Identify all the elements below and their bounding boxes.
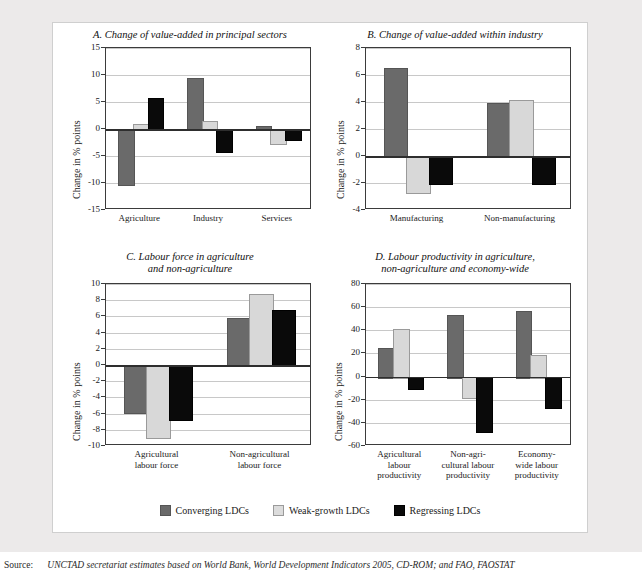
y-axis-tick: [101, 47, 105, 48]
y-axis-tick: [361, 376, 365, 377]
panel-d-title: D. Labour productivity in agriculture, n…: [327, 251, 583, 275]
legend: Converging LDCs Weak-growth LDCs Regress…: [53, 505, 587, 516]
bar: [476, 377, 493, 433]
y-axis-tick-label: -2: [327, 178, 360, 187]
panel-d: D. Labour productivity in agriculture, n…: [327, 251, 583, 487]
gridline: [366, 48, 570, 49]
y-axis-tick-label: 6: [327, 70, 360, 79]
zero-axis-line: [106, 365, 310, 367]
y-axis-tick: [101, 380, 105, 381]
y-axis-tick-label: 4: [327, 97, 360, 106]
bar: [429, 156, 453, 185]
y-axis-tick: [101, 445, 105, 446]
gridline: [366, 423, 570, 424]
y-axis-tick-label: 4: [59, 327, 100, 336]
y-axis-tick: [101, 182, 105, 183]
x-axis-category-label: Agricultural labour force: [105, 449, 208, 470]
bar: [509, 100, 533, 158]
y-axis-tick: [361, 352, 365, 353]
y-axis-tick: [101, 74, 105, 75]
y-axis-tick: [361, 399, 365, 400]
x-axis-category-label: Non-agricultural labour force: [208, 449, 311, 470]
gridline: [106, 156, 310, 157]
y-axis-tick: [361, 155, 365, 156]
x-axis-category-label: Agriculture: [105, 213, 174, 224]
gridline: [366, 307, 570, 308]
panel-a-title: A. Change of value-added in principal se…: [59, 29, 321, 41]
y-axis-tick-label: -60: [327, 441, 360, 450]
y-axis-tick-label: -15: [59, 205, 100, 214]
y-axis-tick-label: 0: [59, 124, 100, 133]
bar: [408, 377, 425, 391]
y-axis-tick-label: 20: [327, 348, 360, 357]
y-axis-tick: [361, 283, 365, 284]
y-axis-tick: [361, 306, 365, 307]
y-axis-tick-label: 40: [327, 325, 360, 334]
legend-label-weak-growth: Weak-growth LDCs: [289, 505, 370, 516]
zero-axis-line: [366, 156, 570, 158]
panel-b: B. Change of value-added within industry…: [327, 29, 583, 245]
y-axis-tick-label: -4: [327, 205, 360, 214]
legend-label-converging: Converging LDCs: [176, 505, 249, 516]
y-axis-tick-label: -20: [327, 394, 360, 403]
y-axis-tick-label: 10: [59, 279, 100, 288]
legend-item-converging: Converging LDCs: [160, 505, 249, 516]
y-axis-tick: [101, 429, 105, 430]
y-axis-tick-label: -10: [59, 441, 100, 450]
x-axis-category-label: Services: [242, 213, 311, 224]
y-axis-tick-label: -4: [59, 392, 100, 401]
gridline: [106, 183, 310, 184]
gridline: [366, 284, 570, 285]
x-axis-category-label: Agricultural labour productivity: [365, 449, 434, 481]
y-axis-tick-label: 0: [327, 371, 360, 380]
panel-b-plot-area: [365, 47, 571, 209]
gridline: [106, 284, 310, 285]
bar: [393, 329, 410, 378]
y-axis-tick: [361, 329, 365, 330]
source-text: UNCTAD secretariat estimates based on Wo…: [47, 560, 514, 570]
bar: [249, 294, 273, 367]
zero-axis-line: [106, 129, 310, 131]
panel-a-plot-frame: [105, 47, 311, 209]
panel-c: C. Labour force in agriculture and non-a…: [59, 251, 321, 487]
source-label: Source:: [4, 560, 33, 570]
bar: [285, 129, 302, 141]
y-axis-tick: [361, 101, 365, 102]
x-axis-category-label: Non-manufacturing: [468, 213, 571, 224]
legend-item-weak-growth: Weak-growth LDCs: [273, 505, 370, 516]
panel-a-plot-area: [105, 47, 311, 209]
bar: [272, 310, 296, 367]
panel-b-plot-frame: [365, 47, 571, 209]
y-axis-tick: [361, 182, 365, 183]
y-axis-tick: [361, 422, 365, 423]
bar: [124, 365, 148, 414]
y-axis-tick: [101, 332, 105, 333]
y-axis-tick-label: 2: [59, 343, 100, 352]
x-axis-category-label: Non-agri- cultural labour productivity: [434, 449, 503, 481]
bar: [406, 156, 430, 194]
bar: [530, 355, 547, 378]
y-axis-tick-label: 60: [327, 302, 360, 311]
y-axis-tick-label: -8: [59, 424, 100, 433]
legend-swatch-icon-weak-growth: [273, 505, 284, 516]
gridline: [366, 400, 570, 401]
panel-d-plot-frame: [365, 283, 571, 445]
source-note: Source: UNCTAD secretariat estimates bas…: [4, 560, 638, 571]
bar: [545, 377, 562, 409]
y-axis-tick: [101, 299, 105, 300]
legend-swatch-icon-regressing: [394, 505, 405, 516]
y-axis-tick: [361, 74, 365, 75]
bar: [148, 98, 165, 131]
y-axis-tick-label: 5: [59, 97, 100, 106]
bar: [384, 68, 408, 158]
y-axis-tick: [361, 209, 365, 210]
y-axis-tick-label: 2: [327, 124, 360, 133]
y-axis-tick: [101, 155, 105, 156]
y-axis-tick: [101, 315, 105, 316]
y-axis-tick: [361, 128, 365, 129]
gridline: [106, 430, 310, 431]
bar: [447, 315, 464, 378]
y-axis-tick: [101, 413, 105, 414]
y-axis-tick: [101, 209, 105, 210]
bar: [487, 103, 511, 158]
